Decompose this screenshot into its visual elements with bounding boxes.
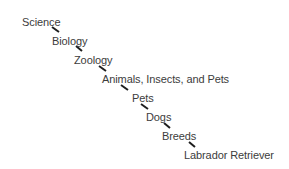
node-zoology[interactable]: Zoology <box>74 54 112 66</box>
node-labrador-retriever[interactable]: Labrador Retriever <box>184 149 274 161</box>
node-dogs[interactable]: Dogs <box>146 111 171 123</box>
node-breeds[interactable]: Breeds <box>162 130 196 142</box>
connector-pets-dogs <box>141 104 148 109</box>
connector-breeds-labrador <box>189 142 195 147</box>
node-science[interactable]: Science <box>22 16 60 28</box>
connector-dogs-breeds <box>164 123 170 128</box>
node-pets[interactable]: Pets <box>132 92 154 104</box>
node-biology[interactable]: Biology <box>52 35 87 47</box>
node-animals-insects-pets[interactable]: Animals, Insects, and Pets <box>102 73 229 85</box>
connector-zoology-animals <box>99 66 106 71</box>
connector-animals-pets <box>121 85 128 90</box>
